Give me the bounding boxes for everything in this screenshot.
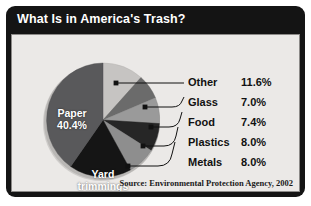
chart-panel: Paper 40.4% Yard trimmings 17.6% Other 1…	[11, 34, 300, 192]
legend-value-food: 7.4%	[241, 116, 266, 128]
slice-label-paper-value: 40.4%	[41, 120, 103, 132]
slice-label-paper-name: Paper	[41, 108, 103, 120]
legend-value-metals: 8.0%	[241, 156, 266, 168]
legend-label-other: Other	[188, 76, 217, 88]
source-note: Source: Environmental Protection Agency,…	[119, 178, 293, 188]
legend-value-glass: 7.0%	[241, 96, 266, 108]
legend-label-glass: Glass	[188, 96, 218, 108]
page-title: What Is in America's Trash?	[17, 12, 185, 26]
legend-label-food: Food	[188, 116, 215, 128]
figure-frame: What Is in America's Trash?	[6, 6, 305, 197]
legend-value-plastics: 8.0%	[241, 136, 266, 148]
trash-composition-figure: What Is in America's Trash?	[0, 0, 311, 206]
legend-value-other: 11.6%	[241, 76, 272, 88]
legend-label-metals: Metals	[188, 156, 222, 168]
figure-title-bar: What Is in America's Trash?	[6, 6, 305, 35]
slice-label-paper: Paper 40.4%	[41, 108, 103, 131]
legend-label-plastics: Plastics	[188, 136, 230, 148]
